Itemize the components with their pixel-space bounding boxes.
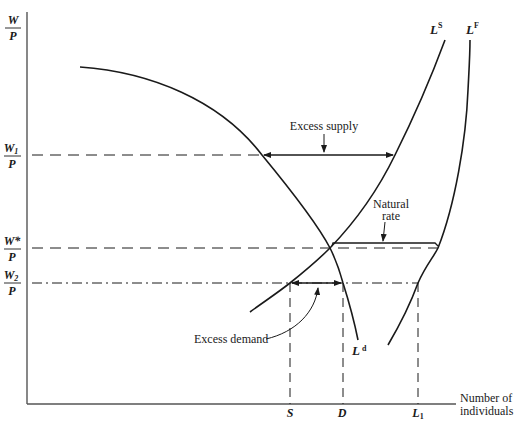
natural-rate-bracket — [332, 243, 438, 246]
svg-text:W1: W1 — [4, 141, 19, 156]
excess-demand-label: Excess demand — [194, 332, 268, 346]
excess-supply-label: Excess supply — [290, 119, 358, 133]
curve-label-lf: LF — [465, 21, 479, 37]
x-tick-l1: L1 — [411, 406, 423, 421]
curve-label-ls: LS — [429, 21, 443, 37]
x-tick-d: D — [337, 406, 347, 420]
curve-label-ld: Ld — [351, 343, 367, 358]
svg-text:W: W — [8, 13, 20, 27]
x-axis-label-line2: individuals — [460, 404, 514, 418]
natural-rate-label-line2: rate — [382, 209, 400, 223]
y-axis-label: W P — [5, 13, 21, 43]
labor-force-curve — [388, 40, 470, 345]
svg-text:P: P — [8, 157, 16, 171]
svg-text:W*: W* — [4, 234, 22, 248]
x-tick-s: S — [287, 406, 294, 420]
x-axis-label-line1: Number of — [460, 391, 512, 405]
svg-text:W2: W2 — [4, 268, 19, 283]
wage-label-w1: W1 P — [4, 141, 21, 171]
labor-demand-curve — [80, 67, 358, 340]
svg-text:P: P — [9, 29, 17, 43]
svg-text:P: P — [8, 284, 16, 298]
wage-label-wstar: W* P — [4, 234, 22, 264]
labor-market-diagram: W P W1 P W* P W2 P LS LF Ld Excess suppl… — [0, 0, 515, 425]
svg-text:P: P — [8, 250, 16, 264]
wage-label-w2: W2 P — [4, 268, 21, 298]
natural-rate-pointer — [383, 222, 385, 241]
